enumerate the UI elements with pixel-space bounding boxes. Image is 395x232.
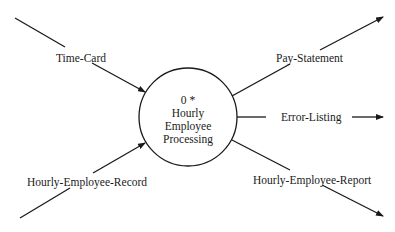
flow-line-segment [232, 64, 290, 96]
dfd-canvas: 0 * Hourly Employee Processing Time-Card… [0, 0, 395, 232]
flow-hourly-employee-report[interactable]: Hourly-Employee-Report [232, 140, 383, 216]
flow-arrow-icon [320, 17, 383, 50]
flow-time-card[interactable]: Time-Card [15, 18, 145, 92]
flow-arrow-icon [92, 63, 145, 92]
process-name-line-2: Employee [165, 120, 212, 133]
flow-label-hourly-employee-report: Hourly-Employee-Report [253, 174, 372, 187]
flow-error-listing[interactable]: Error-Listing [237, 111, 383, 124]
flow-label-error-listing: Error-Listing [281, 111, 342, 124]
flow-line-segment [15, 18, 65, 47]
flow-line-segment [20, 188, 70, 218]
flow-pay-statement[interactable]: Pay-Statement [232, 17, 383, 96]
flow-label-pay-statement: Pay-Statement [276, 52, 344, 65]
process-name-line-1: Hourly [172, 107, 205, 120]
flow-arrow-icon [322, 185, 383, 216]
flow-arrow-icon [93, 143, 145, 173]
flow-label-hourly-employee-record: Hourly-Employee-Record [27, 176, 147, 189]
flow-hourly-employee-record[interactable]: Hourly-Employee-Record [20, 143, 147, 218]
process-number: 0 * [181, 94, 196, 106]
process-name-line-3: Processing [163, 133, 213, 146]
flow-label-time-card: Time-Card [56, 52, 106, 64]
process-bubble[interactable]: 0 * Hourly Employee Processing [139, 68, 237, 166]
flow-line-segment [232, 140, 290, 170]
